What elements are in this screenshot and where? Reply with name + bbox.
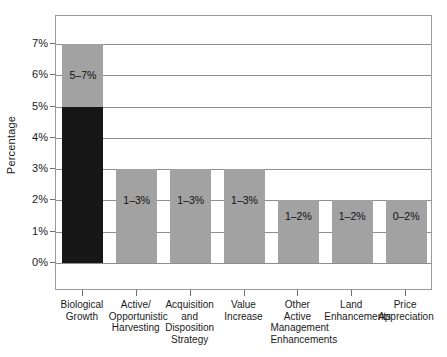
x-axis-category-line: Opportunistic [109, 311, 163, 323]
x-axis-category-label: ValueIncrease [217, 299, 271, 322]
plot-area: 5–7%1–3%1–3%1–3%1–2%1–2%0–2% [55, 15, 432, 290]
bar[interactable] [62, 44, 103, 263]
x-axis-category-line: Biological [55, 299, 109, 311]
bar-segment-range [62, 44, 103, 107]
x-axis-category-line: and [163, 311, 217, 323]
bar-segment-range [332, 200, 373, 263]
x-axis-category-line: Land [324, 299, 378, 311]
y-axis-tick-mark [50, 106, 55, 107]
y-axis-tick-mark [50, 199, 55, 200]
gridline [56, 263, 431, 264]
y-axis-tick-label: 6% [18, 68, 48, 80]
x-axis-category-line: Acquisition [163, 299, 217, 311]
x-axis-category-line: Enhancements [270, 334, 324, 346]
x-axis-category-label: BiologicalGrowth [55, 299, 109, 322]
x-axis-category-label: AcquisitionandDispositionStrategy [163, 299, 217, 345]
x-axis-category-line: Active/ [109, 299, 163, 311]
y-axis-tick-mark [50, 74, 55, 75]
x-axis-tick-mark [405, 290, 406, 296]
y-axis-tick-mark [50, 262, 55, 263]
chart-page: Percentage 5–7%1–3%1–3%1–3%1–2%1–2%0–2% … [0, 0, 447, 357]
y-axis-tick-mark [50, 231, 55, 232]
bar[interactable] [278, 200, 319, 263]
bar[interactable] [332, 200, 373, 263]
bar-segment-base [62, 107, 103, 263]
bar-segment-range [278, 200, 319, 263]
gridline [56, 107, 431, 108]
data-region: 5–7%1–3%1–3%1–3%1–2%1–2%0–2% [56, 16, 431, 263]
x-axis-tick-mark [244, 290, 245, 296]
bar[interactable] [170, 169, 211, 263]
x-axis-category-line: Harvesting [109, 322, 163, 334]
x-axis-category-label: PriceAppreciation [378, 299, 432, 322]
y-axis-tick-label: 3% [18, 162, 48, 174]
x-axis-category-line: Value [217, 299, 271, 311]
y-axis-tick-label: 5% [18, 100, 48, 112]
x-axis-tick-mark [136, 290, 137, 296]
bar-segment-range [116, 169, 157, 263]
x-axis-category-label: LandEnhancements [324, 299, 378, 322]
bar[interactable] [224, 169, 265, 263]
y-axis-tick-mark [50, 168, 55, 169]
x-axis-category-label: OtherActiveManagementEnhancements [270, 299, 324, 345]
x-axis-category-line: Other [270, 299, 324, 311]
x-axis-category-line: Increase [217, 311, 271, 323]
x-axis-category-label: Active/OpportunisticHarvesting [109, 299, 163, 334]
x-axis-tick-mark [351, 290, 352, 296]
bar-segment-range [386, 200, 427, 263]
x-axis-category-line: Price [378, 299, 432, 311]
y-axis-tick-mark [50, 43, 55, 44]
y-axis-tick-label: 7% [18, 37, 48, 49]
gridline [56, 138, 431, 139]
x-axis-tick-mark [190, 290, 191, 296]
bar[interactable] [386, 200, 427, 263]
y-axis-tick-label: 4% [18, 131, 48, 143]
x-axis-tick-mark [297, 290, 298, 296]
x-axis-category-line: Appreciation [378, 311, 432, 323]
x-axis: BiologicalGrowthActive/OpportunisticHarv… [55, 290, 432, 357]
y-axis-tick-label: 1% [18, 225, 48, 237]
x-axis-tick-mark [82, 290, 83, 296]
x-axis-category-line: Disposition [163, 322, 217, 334]
bar-segment-range [170, 169, 211, 263]
y-axis-title-text: Percentage [5, 116, 17, 174]
x-axis-category-line: Strategy [163, 334, 217, 346]
bar[interactable] [116, 169, 157, 263]
x-axis-category-line: Management [270, 322, 324, 334]
y-axis-tick-label: 0% [18, 256, 48, 268]
x-axis-category-line: Active [270, 311, 324, 323]
gridline [56, 44, 431, 45]
gridline [56, 75, 431, 76]
x-axis-category-line: Enhancements [324, 311, 378, 323]
bar-segment-range [224, 169, 265, 263]
x-axis-category-line: Growth [55, 311, 109, 323]
y-axis-tick-mark [50, 137, 55, 138]
y-axis-tick-label: 2% [18, 193, 48, 205]
